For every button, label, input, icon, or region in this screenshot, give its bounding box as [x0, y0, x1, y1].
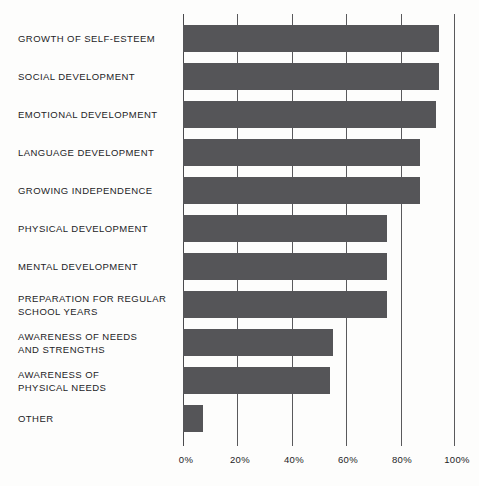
- bar-physical-development: [183, 215, 387, 242]
- bar-mental-development: [183, 253, 387, 280]
- category-label-line: AND STRENGTHS: [18, 344, 178, 357]
- category-label-awareness-of-needs-and-strengths: AWARENESS OF NEEDS AND STRENGTHS: [18, 331, 178, 356]
- category-label-emotional-development: EMOTIONAL DEVELOPMENT: [18, 109, 178, 122]
- category-label-line: AWARENESS OF: [18, 369, 178, 382]
- xtick-label-100: 100%: [444, 454, 470, 465]
- category-label-line: SOCIAL DEVELOPMENT: [18, 71, 178, 84]
- xtick-label-20: 20%: [230, 454, 250, 465]
- category-label-other: OTHER: [18, 413, 178, 426]
- category-label-social-development: SOCIAL DEVELOPMENT: [18, 71, 178, 84]
- category-label-physical-development: PHYSICAL DEVELOPMENT: [18, 223, 178, 236]
- category-label-line: MENTAL DEVELOPMENT: [18, 261, 178, 274]
- bar-awareness-of-needs-and-strengths: [183, 329, 333, 356]
- bar-social-development: [183, 63, 439, 90]
- bar-growing-independence: [183, 177, 420, 204]
- category-label-mental-development: MENTAL DEVELOPMENT: [18, 261, 178, 274]
- category-label-line: GROWING INDEPENDENCE: [18, 185, 178, 198]
- category-label-line: PREPARATION FOR REGULAR: [18, 293, 178, 306]
- category-labels: GROWTH OF SELF-ESTEEM SOCIAL DEVELOPMENT…: [0, 14, 175, 446]
- bars-layer: [183, 14, 455, 446]
- xtick-label-60: 60%: [338, 454, 358, 465]
- category-label-line: LANGUAGE DEVELOPMENT: [18, 147, 178, 160]
- bar-preparation-for-regular-school-years: [183, 291, 387, 318]
- bar-growth-of-self-esteem: [183, 25, 439, 52]
- category-label-growing-independence: GROWING INDEPENDENCE: [18, 185, 178, 198]
- bar-language-development: [183, 139, 420, 166]
- category-label-line: SCHOOL YEARS: [18, 306, 178, 319]
- category-label-awareness-of-physical-needs: AWARENESS OF PHYSICAL NEEDS: [18, 369, 178, 394]
- category-label-language-development: LANGUAGE DEVELOPMENT: [18, 147, 178, 160]
- category-label-line: AWARENESS OF NEEDS: [18, 331, 178, 344]
- category-label-line: PHYSICAL DEVELOPMENT: [18, 223, 178, 236]
- category-label-preparation-for-regular-school-years: PREPARATION FOR REGULAR SCHOOL YEARS: [18, 293, 178, 318]
- bar-awareness-of-physical-needs: [183, 367, 330, 394]
- bar-emotional-development: [183, 101, 436, 128]
- category-label-growth-of-self-esteem: GROWTH OF SELF-ESTEEM: [18, 33, 178, 46]
- category-label-line: PHYSICAL NEEDS: [18, 382, 178, 395]
- xtick-label-80: 80%: [392, 454, 412, 465]
- bar-other: [183, 405, 203, 432]
- category-label-line: OTHER: [18, 413, 178, 426]
- category-label-line: EMOTIONAL DEVELOPMENT: [18, 109, 178, 122]
- xtick-label-0: 0%: [179, 454, 193, 465]
- horizontal-bar-chart: GROWTH OF SELF-ESTEEM SOCIAL DEVELOPMENT…: [0, 0, 479, 486]
- xtick-label-40: 40%: [284, 454, 304, 465]
- category-label-line: GROWTH OF SELF-ESTEEM: [18, 33, 178, 46]
